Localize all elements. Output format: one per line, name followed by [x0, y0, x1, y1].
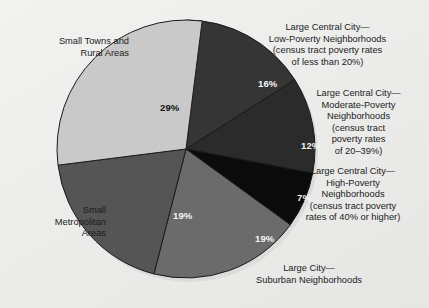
slice-value-suburban: 19% — [255, 234, 274, 244]
slice-label-small-towns: Small Towns and Rural Areas — [2, 36, 129, 59]
slice-label-high-poverty: Large Central City— High-Poverty Neighbo… — [277, 166, 429, 224]
slice-value-small-metro: 19% — [173, 211, 192, 221]
slice-label-moderate-poverty: Large Central City— Moderate-Poverty Nei… — [288, 88, 429, 158]
slice-value-small-towns: 29% — [160, 103, 179, 113]
slice-value-low-poverty: 16% — [258, 79, 277, 89]
slice-label-suburban: Large City— Suburban Neighborhoods — [214, 263, 404, 286]
pie-chart-figure: 16% 12% 7% 19% 19% 29% Large Central Cit… — [0, 0, 429, 308]
slice-label-small-metro: Small Metropolitan Areas — [2, 205, 106, 240]
slice-label-low-poverty: Large Central City— Low-Poverty Neighbor… — [226, 22, 429, 68]
